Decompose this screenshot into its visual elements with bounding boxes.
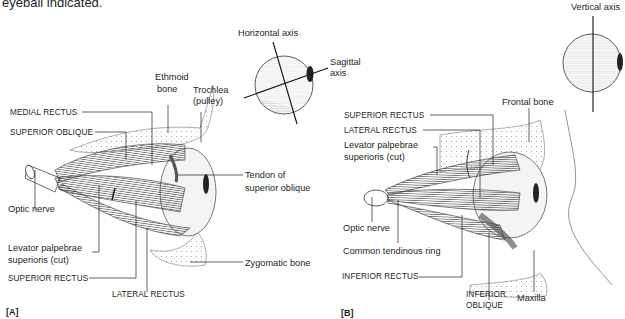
tendon-superior-oblique-label-line2: superior oblique: [245, 183, 310, 193]
optic-nerve-label-b: Optic nerve: [343, 223, 390, 233]
inferior-rectus-label: INFERIOR RECTUS: [342, 272, 419, 282]
frontal-bone-label: Frontal bone: [502, 97, 554, 107]
panel-label-b: [B]: [341, 308, 354, 318]
ethmoid-bone-label-line2: bone: [157, 84, 177, 94]
levator-palpebrae-label-b-line2: superioris (cut): [344, 152, 405, 162]
sagittal-axis-label-line1: Sagittal: [330, 57, 361, 67]
tendon-superior-oblique-label-line1: Tendon of: [245, 170, 285, 180]
trochlea-label-line1: Trochlea: [193, 85, 228, 95]
lateral-rectus-label-a: LATERAL RECTUS: [112, 290, 185, 300]
vertical-axis-label: Vertical axis: [571, 2, 620, 12]
levator-palpebrae-label-a-line1: Levator palpebrae: [8, 243, 82, 253]
levator-palpebrae-label-a-line2: superioris (cut): [8, 255, 69, 265]
trochlea-label-line2: (pulley): [193, 96, 223, 106]
medial-rectus-label-a: MEDIAL RECTUS: [10, 108, 77, 118]
ethmoid-bone-label-line1: Ethmoid: [155, 72, 189, 82]
common-tendinous-ring-label: Common tendinous ring: [343, 246, 441, 256]
maxilla-label: Maxilla: [517, 293, 546, 303]
superior-oblique-label-a: SUPERIOR OBLIQUE: [10, 128, 93, 138]
superior-rectus-label-a: SUPERIOR RECTUS: [8, 274, 88, 284]
anatomy-illustration: [0, 0, 625, 319]
panel-label-a: [A]: [6, 307, 19, 317]
inferior-oblique-label-line2: OBLIQUE: [466, 301, 503, 311]
zygomatic-bone-label: Zygomatic bone: [245, 258, 310, 268]
levator-palpebrae-label-b-line1: Levator palpebrae: [344, 140, 418, 150]
sagittal-axis-label-line2: axis: [330, 68, 346, 78]
optic-nerve-label-a: Optic nerve: [8, 204, 55, 214]
horizontal-axis-label: Horizontal axis: [238, 28, 298, 38]
eyeball-axis-diagram-a: [244, 42, 328, 124]
eyeball-axis-diagram-b: [563, 16, 623, 112]
inferior-oblique-label-line1: INFERIOR: [466, 290, 506, 300]
superior-rectus-label-b: SUPERIOR RECTUS: [344, 111, 424, 121]
lateral-rectus-label-b: LATERAL RECTUS: [344, 126, 417, 136]
